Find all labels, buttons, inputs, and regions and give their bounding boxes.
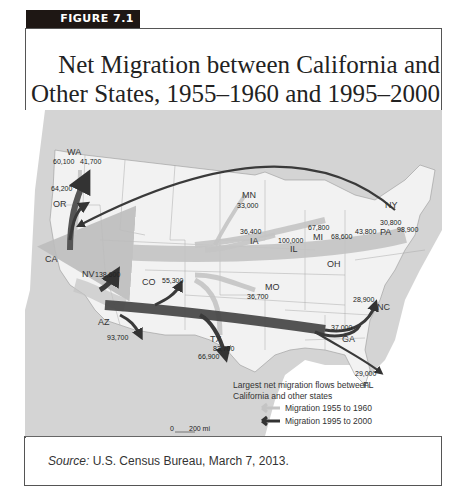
state-label-mn: MN <box>242 190 256 200</box>
scale-distance: 200 mi <box>189 425 210 432</box>
state-label-tx: TX <box>210 334 222 344</box>
flow-value-mi-1955: 67,800 <box>308 224 330 231</box>
flow-value-tx-1955: 83,700 <box>213 345 235 352</box>
title-line-2: Other States, 1955–1960 and 1995–2000 <box>30 79 440 108</box>
flow-value-oh-1955: 68,600 <box>331 233 353 240</box>
flow-value-nv-1995: 138,600 <box>95 271 120 278</box>
state-label-pa: PA <box>380 227 391 237</box>
legend-item-1955: Migration 1955 to 1960 <box>285 403 372 413</box>
legend-title-line-1: Largest net migration flows between <box>233 380 369 390</box>
flow-value-pa-1955: 43,800 <box>355 228 377 235</box>
migration-map: WA OR CA NV AZ CO TX MN IA IL MO MI OH P… <box>25 110 442 436</box>
state-label-mi: MI <box>313 232 323 242</box>
state-label-ga: GA <box>342 334 355 344</box>
flow-value-ga-1995: 37,000 <box>331 324 353 331</box>
source-citation: Source: U.S. Census Bureau, March 7, 201… <box>48 454 289 468</box>
flow-value-wa-1955: 41,700 <box>80 158 102 165</box>
state-label-or: OR <box>53 199 67 209</box>
state-label-ny: NY <box>385 200 398 210</box>
flow-value-mo-1955: 36,700 <box>247 293 269 300</box>
flow-value-wa-1995: 60,100 <box>53 158 75 165</box>
legend-item-1995: Migration 1995 to 2000 <box>285 416 372 426</box>
figure-title: Net Migration between California and Oth… <box>30 50 440 108</box>
flow-value-ny-1955: 98,900 <box>397 226 419 233</box>
state-label-ia: IA <box>250 236 259 246</box>
state-label-il: IL <box>290 244 298 254</box>
title-line-1: Net Migration between California and <box>30 50 440 79</box>
state-label-wa: WA <box>67 147 81 157</box>
state-label-oh: OH <box>327 259 341 269</box>
flow-value-az-1995: 93,700 <box>107 334 129 341</box>
legend-title-line-2: California and other states <box>233 391 332 401</box>
state-label-nc: NC <box>377 302 390 312</box>
state-label-ca: CA <box>45 254 58 264</box>
state-label-co: CO <box>142 277 156 287</box>
state-label-mo: MO <box>265 282 280 292</box>
flow-value-nc-1995: 28,900 <box>353 296 375 303</box>
flow-value-ny-1995: 30,800 <box>380 219 402 226</box>
scale-zero: 0 <box>170 425 174 432</box>
flow-value-or-1995: 64,200 <box>51 185 73 192</box>
flow-value-co-1995: 55,300 <box>162 277 184 284</box>
flow-value-mn-1955: 33,000 <box>237 202 259 209</box>
figure-tag: FIGURE 7.1 <box>26 10 140 28</box>
flow-value-il-1955: 100,000 <box>278 237 303 244</box>
source-prefix: Source: <box>48 454 89 468</box>
source-text: U.S. Census Bureau, March 7, 2013. <box>89 454 288 468</box>
flow-value-fl-1995: 29,000 <box>355 370 377 377</box>
flow-value-ia-1955: 36,400 <box>240 228 262 235</box>
flow-value-tx-1995: 66,900 <box>198 353 220 360</box>
state-label-nv: NV <box>82 269 95 279</box>
state-label-az: AZ <box>98 317 110 327</box>
